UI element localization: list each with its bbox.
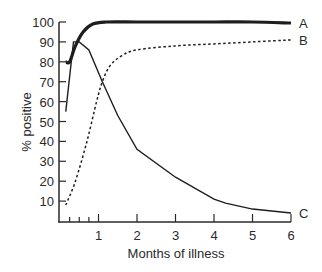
series-c-line <box>66 42 291 213</box>
series-b-line <box>66 40 291 205</box>
series-b-label: B <box>299 33 308 48</box>
y-tick-label: 60 <box>40 95 54 110</box>
y-tick-label: 80 <box>40 55 54 70</box>
y-tick-label: 10 <box>40 194 54 209</box>
y-tick-label: 50 <box>40 115 54 130</box>
x-tick-label: 5 <box>249 228 256 243</box>
y-tick-label: 30 <box>40 154 54 169</box>
y-tick-label: 40 <box>40 134 54 149</box>
x-axis-title: Months of illness <box>128 246 225 261</box>
y-tick-label: 100 <box>32 15 54 30</box>
series-labels: ABC <box>299 16 308 221</box>
x-tick-label: 4 <box>210 228 217 243</box>
series-c-label: C <box>299 206 308 221</box>
x-tick-label: 2 <box>133 228 140 243</box>
y-tick-label: 20 <box>40 174 54 189</box>
y-axis-title: % positive <box>19 92 34 151</box>
y-tick-label: 70 <box>40 75 54 90</box>
chart: 102030405060708090100123456 ABC % positi… <box>0 0 322 272</box>
series-a-label: A <box>299 16 308 31</box>
x-tick-label: 6 <box>287 228 294 243</box>
y-tick-label: 90 <box>40 35 54 50</box>
series-lines <box>66 22 291 213</box>
x-tick-label: 3 <box>172 228 179 243</box>
x-tick-label: 1 <box>95 228 102 243</box>
series-a-line <box>66 22 291 63</box>
